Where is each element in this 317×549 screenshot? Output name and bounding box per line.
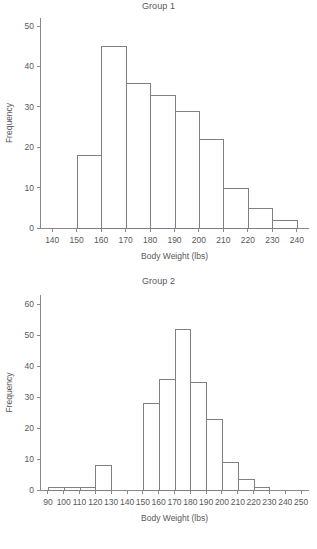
figure-root: Group 1 01020304050140150160170180190200… <box>0 0 317 549</box>
histogram-bar <box>207 419 223 490</box>
x-tick-label: 160 <box>94 235 108 245</box>
x-tick-label: 240 <box>278 497 292 507</box>
histogram-bar <box>159 379 175 490</box>
histogram-bar <box>143 404 159 491</box>
x-tick-label: 170 <box>167 497 181 507</box>
y-tick-label: 0 <box>29 485 34 495</box>
histogram-bar <box>273 220 297 228</box>
y-tick-label: 30 <box>25 102 35 112</box>
histogram-bar <box>224 188 248 228</box>
histogram-bar <box>175 111 199 228</box>
y-tick-label: 10 <box>25 183 35 193</box>
x-tick-label: 230 <box>265 235 279 245</box>
y-axis-title: Frequency <box>4 372 14 413</box>
y-tick-label: 40 <box>25 61 35 71</box>
chart-panel-group-1: Group 1 01020304050140150160170180190200… <box>0 0 317 274</box>
y-tick-label: 20 <box>25 142 35 152</box>
histogram-bar <box>102 47 126 229</box>
y-tick-label: 50 <box>25 21 35 31</box>
histogram-bar <box>222 463 238 491</box>
x-tick-label: 140 <box>45 235 59 245</box>
histogram-bar <box>248 208 272 228</box>
histogram-bar <box>254 487 270 490</box>
x-tick-label: 170 <box>118 235 132 245</box>
x-tick-label: 110 <box>73 497 87 507</box>
histogram-bar <box>96 466 112 491</box>
x-tick-label: 210 <box>216 235 230 245</box>
x-tick-label: 180 <box>143 235 157 245</box>
histogram-bar <box>175 330 191 491</box>
x-tick-label: 220 <box>241 235 255 245</box>
histogram-bar <box>191 382 207 490</box>
y-tick-label: 40 <box>25 361 35 371</box>
y-tick-label: 30 <box>25 392 35 402</box>
chart-panel-group-2: Group 2 01020304050609010011012013014015… <box>0 275 317 549</box>
x-axis-title: Body Weight (lbs) <box>141 513 208 523</box>
histogram-bar <box>151 95 175 228</box>
histogram-bar <box>199 140 223 229</box>
y-tick-label: 50 <box>25 330 35 340</box>
y-axis-title: Frequency <box>4 102 14 143</box>
x-tick-label: 200 <box>215 497 229 507</box>
histogram-bar <box>64 487 80 490</box>
x-tick-label: 200 <box>192 235 206 245</box>
x-tick-label: 150 <box>70 235 84 245</box>
histogram-bar <box>48 487 64 490</box>
x-tick-label: 130 <box>104 497 118 507</box>
histogram-bar <box>126 83 150 228</box>
x-tick-label: 140 <box>120 497 134 507</box>
histogram-bar <box>80 487 96 490</box>
x-tick-label: 100 <box>57 497 71 507</box>
x-axis-title: Body Weight (lbs) <box>141 251 208 261</box>
x-tick-label: 230 <box>262 497 276 507</box>
histogram-bar <box>238 480 254 491</box>
x-tick-label: 190 <box>199 497 213 507</box>
histogram-group-1: 0102030405014015016017018019020021022023… <box>0 0 317 274</box>
x-tick-label: 150 <box>136 497 150 507</box>
x-tick-label: 90 <box>43 497 53 507</box>
x-tick-label: 210 <box>231 497 245 507</box>
y-tick-label: 0 <box>29 223 34 233</box>
histogram-bar <box>77 156 101 229</box>
x-tick-label: 180 <box>183 497 197 507</box>
y-tick-label: 10 <box>25 454 35 464</box>
x-tick-label: 120 <box>88 497 102 507</box>
x-tick-label: 240 <box>290 235 304 245</box>
x-tick-label: 250 <box>294 497 308 507</box>
y-tick-label: 60 <box>25 299 35 309</box>
x-tick-label: 220 <box>247 497 261 507</box>
x-tick-label: 160 <box>152 497 166 507</box>
x-tick-label: 190 <box>167 235 181 245</box>
histogram-group-2: 0102030405060901001101201301401501601701… <box>0 275 317 549</box>
y-tick-label: 20 <box>25 423 35 433</box>
